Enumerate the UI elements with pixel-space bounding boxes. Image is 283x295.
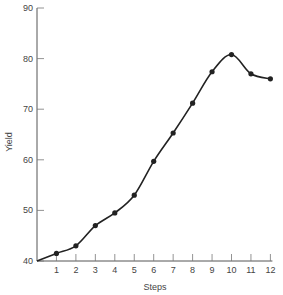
axes [37,8,272,261]
data-point [132,193,137,198]
data-point [190,101,195,106]
line-chart: 405060708090 123456789101112 Steps Yield [0,0,283,295]
data-point [73,243,78,248]
y-tick-label: 70 [23,104,33,114]
y-tick-label: 60 [23,155,33,165]
x-tick-label: 9 [210,265,215,275]
x-tick-label: 3 [93,265,98,275]
data-points [54,52,273,256]
x-tick-label: 5 [132,265,137,275]
x-axis-label: Steps [143,282,167,292]
data-point [54,251,59,256]
x-tick-label: 10 [226,265,236,275]
data-line [37,55,270,261]
data-point [151,159,156,164]
y-tick-label: 40 [23,256,33,266]
x-tick-label: 6 [151,265,156,275]
x-tick-label: 4 [112,265,117,275]
data-point [268,76,273,81]
y-tick-label: 90 [23,3,33,13]
x-tick-label: 12 [265,265,275,275]
x-tick-labels: 123456789101112 [54,265,275,275]
x-tick-label: 11 [246,265,255,275]
y-tick-label: 50 [23,205,33,215]
y-tick-labels: 405060708090 [23,3,33,266]
data-point [209,69,214,74]
x-tick-label: 2 [73,265,78,275]
data-point [248,71,253,76]
x-tick-label: 7 [171,265,176,275]
data-point [229,52,234,57]
data-point [93,223,98,228]
y-axis-label: Yield [4,132,14,152]
x-tick-label: 1 [54,265,59,275]
x-tick-label: 8 [190,265,195,275]
data-point [112,210,117,215]
data-point [171,130,176,135]
y-tick-label: 80 [23,54,33,64]
